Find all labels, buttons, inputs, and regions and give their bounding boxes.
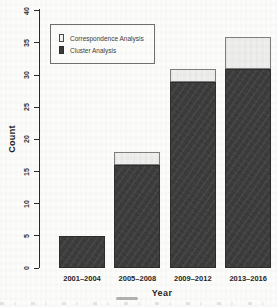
legend-swatch-dark: [59, 46, 64, 54]
y-tick-mark: [34, 75, 39, 76]
y-tick-mark: [34, 42, 39, 43]
legend-item-cluster-analysis: Cluster Analysis: [59, 46, 154, 54]
y-tick-label: 5: [23, 234, 30, 238]
x-tick-label: 2001–2004: [52, 274, 112, 283]
cutoff-text-fragments-row: [0, 302, 277, 305]
y-tick-label: 40: [23, 7, 30, 15]
bar-segment-cluster-analysis: [114, 165, 160, 268]
legend-swatch-light: [59, 34, 64, 42]
x-tick-label: 2013–2016: [218, 274, 277, 283]
y-axis-line: [39, 9, 40, 268]
y-tick-mark: [34, 171, 39, 172]
y-tick-label: 35: [23, 39, 30, 47]
bar-segment-cluster-analysis: [170, 82, 216, 268]
legend-label: Cluster Analysis: [70, 47, 116, 54]
y-tick-mark: [34, 235, 39, 236]
y-tick-mark: [34, 107, 39, 108]
legend-box: Correspondence Analysis Cluster Analysis: [50, 24, 155, 64]
y-tick-mark: [34, 10, 39, 11]
bar-segment-cluster-analysis: [225, 69, 271, 268]
y-tick-mark: [34, 203, 39, 204]
y-axis-title: Count: [7, 125, 17, 153]
bar-segment-correspondence-analysis: [170, 69, 216, 82]
bar-segment-correspondence-analysis: [114, 152, 160, 165]
x-axis-title: Year: [152, 288, 173, 298]
bar-chart-figure: 0510152025303540 Count 2001–20042005–200…: [0, 0, 277, 307]
legend-item-correspondence-analysis: Correspondence Analysis: [59, 34, 154, 42]
y-tick-mark: [34, 139, 39, 140]
x-tick-label: 2005–2008: [107, 274, 167, 283]
y-tick-label: 25: [23, 103, 30, 111]
legend-label: Correspondence Analysis: [70, 35, 144, 42]
y-tick-label: 15: [23, 168, 30, 176]
y-tick-label: 10: [23, 200, 30, 208]
x-tick-label: 2009–2012: [163, 274, 223, 283]
y-tick-label: 30: [23, 71, 30, 79]
bar-segment-correspondence-analysis: [225, 37, 271, 69]
y-tick-label: 20: [23, 135, 30, 143]
y-tick-mark: [34, 268, 39, 269]
cutoff-text-fragment: [116, 297, 138, 300]
bar-segment-cluster-analysis: [59, 236, 105, 268]
y-tick-label: 0: [23, 266, 30, 270]
